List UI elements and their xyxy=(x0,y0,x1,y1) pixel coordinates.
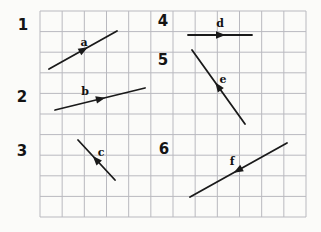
vector-e-label: e xyxy=(220,73,227,86)
problem-number-1: 1 xyxy=(18,16,28,34)
problem-number-5: 5 xyxy=(158,51,168,69)
vector-grid-figure: abcdef123456 xyxy=(0,0,321,232)
vector-b-label: b xyxy=(81,85,89,98)
vector-c-label: c xyxy=(98,146,105,159)
problem-number-3: 3 xyxy=(17,142,27,160)
vector-a-label: a xyxy=(80,36,87,49)
problem-number-4: 4 xyxy=(158,12,168,30)
vector-d-label: d xyxy=(216,17,224,30)
problem-number-6: 6 xyxy=(159,140,169,158)
vector-diagram-canvas: abcdef123456 xyxy=(0,0,321,232)
problem-number-2: 2 xyxy=(17,88,27,106)
figure-background xyxy=(0,0,321,232)
